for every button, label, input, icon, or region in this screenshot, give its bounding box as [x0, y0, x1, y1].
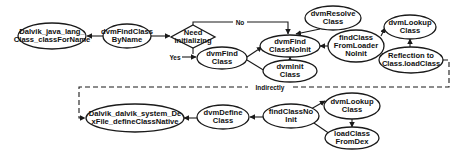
node-label: ByName	[112, 35, 142, 44]
node-define-class: dvmDefine Class	[197, 105, 249, 129]
node-define-class-native: Dalvik_dalvik_system_De xFile_defineClas…	[86, 104, 184, 132]
node-load-class-from-dex: loadClass FromDex	[325, 127, 379, 149]
node-find-class: dvmFind Class	[197, 47, 247, 69]
edge-findclass-to-initclass	[247, 60, 265, 71]
edge-label-indirectly: Indirectly	[256, 84, 285, 92]
node-label: Init	[285, 115, 297, 124]
node-label: Class	[213, 116, 233, 125]
node-label: Class.loadClass	[382, 59, 440, 68]
node-find-class-from-loader: findClass FromLoader NoInit	[328, 30, 384, 62]
edge-findclass-to-findclassnoinit	[247, 47, 262, 57]
node-find-class-by-name: dvmFindClass ByName	[101, 24, 153, 48]
node-label: Class_classForName	[14, 35, 90, 44]
call-flow-diagram: No Yes Indirectly Dalvik_java_lang_ Clas…	[0, 0, 473, 155]
node-label: Class	[212, 57, 232, 66]
node-find-class-no-init: dvmFind ClassNoInit	[260, 35, 320, 57]
node-label: Class	[342, 105, 362, 114]
edge-label-no-text: No	[236, 19, 245, 26]
node-label: Class	[280, 70, 300, 79]
node-label: initializing	[174, 36, 211, 45]
edge-label-yes: Yes	[169, 54, 181, 61]
node-find-class-no-init-2: findClassNo Init	[263, 104, 319, 128]
node-lookup-class-bottom: dvmLookup Class	[324, 93, 380, 119]
node-reflection: Reflection to Class.loadClass	[379, 47, 443, 73]
node-init-class: dvmInit Class	[263, 60, 317, 82]
node-label: FromDex	[336, 137, 370, 146]
node-label: Class	[400, 26, 420, 35]
edge-resolveclass-to-findclassnoinit	[296, 29, 320, 34]
node-label: Class	[323, 17, 343, 26]
node-need-initializing: Need initializing	[171, 25, 215, 48]
node-lookup-class-top: dvmLookup Class	[384, 15, 436, 39]
node-label: xFile_defineClassNative	[92, 117, 179, 126]
node-label: NoInit	[345, 49, 367, 58]
node-class-for-name: Dalvik_java_lang_ Class_classForName	[14, 23, 90, 49]
node-resolve-class: dvmResolve Class	[305, 6, 361, 30]
node-label: ClassNoInit	[269, 45, 311, 54]
